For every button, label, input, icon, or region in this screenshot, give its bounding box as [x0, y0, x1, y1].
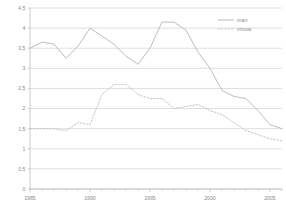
y-tick-label: 4 [23, 25, 26, 31]
legend-label-vrouw: vrouw [237, 26, 251, 32]
x-tick-label: 1995 [144, 195, 156, 201]
y-tick-label: 3 [23, 65, 26, 71]
chart-legend: manvrouw [218, 17, 251, 32]
x-tick-label: 2005 [264, 195, 276, 201]
legend-label-man: man [237, 17, 248, 23]
x-tick-label: 1985 [24, 195, 36, 201]
y-axis: 00,511,522,533,544,5 [18, 5, 30, 192]
y-tick-label: 4,5 [18, 5, 25, 11]
line-chart: 00,511,522,533,544,5 1985199019952000200… [0, 0, 286, 216]
y-tick-label: 2,5 [18, 85, 25, 91]
series-line-vrouw [30, 84, 282, 140]
chart-canvas: 00,511,522,533,544,5 1985199019952000200… [0, 0, 286, 216]
x-tick-label: 2000 [204, 195, 216, 201]
series-lines [30, 22, 282, 141]
x-tick-label: 1990 [84, 195, 96, 201]
y-tick-label: 1,5 [18, 126, 25, 132]
y-tick-label: 3,5 [18, 45, 25, 51]
y-tick-label: 1 [23, 146, 26, 152]
y-tick-label: 0 [23, 186, 26, 192]
y-tick-label: 0,5 [18, 166, 25, 172]
y-tick-label: 2 [23, 105, 26, 111]
series-line-man [30, 22, 282, 129]
x-axis: 19851990199520002005 [24, 189, 282, 201]
